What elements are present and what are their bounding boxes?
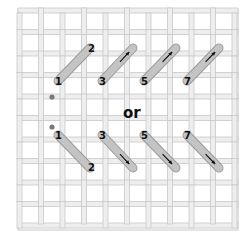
canvas-thread-vertical	[17, 30, 22, 57]
canvas-thread-vertical	[189, 99, 194, 117]
canvas-thread-vertical	[39, 8, 44, 35]
canvas-thread-vertical	[125, 8, 130, 35]
stitch-number-label: 5	[141, 130, 148, 141]
top-row-start-dot	[49, 94, 54, 99]
stitch-number-label: 1	[55, 76, 62, 87]
stitch-number-label: 1	[55, 130, 62, 141]
canvas-thread-vertical	[39, 180, 44, 207]
canvas-thread-vertical	[189, 185, 194, 203]
canvas-thread-vertical	[17, 202, 22, 229]
canvas-thread-vertical	[103, 13, 108, 31]
canvas-thread-vertical	[17, 116, 22, 143]
stitch-number-label: 3	[99, 76, 106, 87]
canvas-thread-vertical	[60, 202, 65, 229]
canvas-thread-vertical	[168, 8, 173, 35]
canvas-thread-vertical	[168, 78, 173, 96]
canvas-thread-vertical	[17, 185, 22, 203]
canvas-thread-vertical	[103, 30, 108, 57]
canvas-thread-vertical	[103, 185, 108, 203]
canvas-thread-vertical	[146, 159, 151, 186]
canvas-thread-vertical	[17, 13, 22, 31]
canvas-thread-vertical	[146, 185, 151, 203]
canvas-thread-vertical	[82, 207, 87, 225]
canvas-thread-vertical	[211, 207, 216, 225]
stitch-number-label: 2	[88, 43, 95, 54]
canvas-thread-vertical	[146, 13, 151, 31]
canvas-thread-vertical	[168, 207, 173, 225]
canvas-thread-vertical	[189, 13, 194, 31]
canvas-thread-vertical	[103, 159, 108, 186]
canvas-thread-vertical	[39, 207, 44, 225]
canvas-thread-vertical	[125, 180, 130, 207]
canvas-thread-vertical	[189, 202, 194, 229]
canvas-thread-vertical	[146, 202, 151, 229]
canvas-thread-vertical	[103, 202, 108, 229]
canvas-thread-vertical	[39, 35, 44, 53]
or-label: or	[123, 104, 141, 122]
canvas-thread-vertical	[232, 142, 237, 160]
canvas-thread-vertical	[39, 137, 44, 164]
canvas-thread-vertical	[17, 73, 22, 100]
canvas-thread-vertical	[189, 159, 194, 186]
canvas-thread-vertical	[39, 164, 44, 182]
canvas-thread-vertical	[39, 78, 44, 96]
stitch-number-label: 2	[88, 162, 95, 173]
canvas-thread-vertical	[146, 99, 151, 117]
canvas-thread-vertical	[125, 78, 130, 96]
stitch-number-label: 7	[184, 130, 191, 141]
canvas-thread-vertical	[39, 94, 44, 121]
bottom-row-start-dot	[49, 124, 54, 129]
stitch-number-label: 7	[184, 76, 191, 87]
canvas-thread-vertical	[17, 159, 22, 186]
canvas-thread-vertical	[82, 8, 87, 35]
canvas-thread-vertical	[232, 73, 237, 100]
canvas-thread-vertical	[168, 94, 173, 121]
stitch-number-label: 5	[141, 76, 148, 87]
canvas-thread-vertical	[211, 8, 216, 35]
canvas-thread-vertical	[168, 121, 173, 139]
canvas-thread-vertical	[17, 142, 22, 160]
canvas-thread-vertical	[168, 180, 173, 207]
canvas-thread-vertical	[232, 159, 237, 186]
canvas-thread-vertical	[125, 121, 130, 139]
canvas-thread-vertical	[60, 13, 65, 31]
stitch-diagram: 1235712357 or	[0, 0, 246, 249]
canvas-thread-vertical	[82, 78, 87, 96]
canvas-thread-vertical	[82, 94, 87, 121]
canvas-thread-vertical	[211, 121, 216, 139]
canvas-thread-vertical	[125, 207, 130, 225]
canvas-thread-vertical	[232, 99, 237, 117]
canvas-thread-vertical	[232, 56, 237, 74]
canvas-thread-vertical	[60, 30, 65, 57]
canvas-thread-vertical	[189, 30, 194, 57]
canvas-thread-vertical	[82, 180, 87, 207]
canvas-thread-vertical	[232, 116, 237, 143]
canvas-thread-vertical	[60, 185, 65, 203]
canvas-thread-vertical	[82, 121, 87, 139]
canvas-thread-vertical	[232, 30, 237, 57]
canvas-thread-vertical	[103, 99, 108, 117]
canvas-thread-vertical	[17, 99, 22, 117]
canvas-thread-vertical	[211, 94, 216, 121]
canvas-thread-vertical	[211, 180, 216, 207]
stitch-number-label: 3	[99, 130, 106, 141]
canvas-grid-illustration: 1235712357 or	[0, 0, 246, 249]
canvas-thread-vertical	[17, 56, 22, 74]
canvas-thread-vertical	[60, 99, 65, 117]
canvas-thread-vertical	[232, 185, 237, 203]
canvas-thread-vertical	[211, 78, 216, 96]
canvas-thread-vertical	[39, 51, 44, 78]
canvas-thread-vertical	[60, 159, 65, 186]
canvas-thread-vertical	[146, 30, 151, 57]
canvas-thread-vertical	[232, 13, 237, 31]
canvas-thread-vertical	[232, 202, 237, 229]
canvas-thread-vertical	[39, 121, 44, 139]
